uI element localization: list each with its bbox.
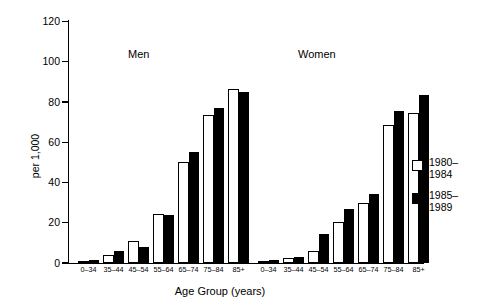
bar [78,261,89,263]
x-axis-tick-label: 85+ [404,266,433,274]
bar [283,258,294,263]
legend-label: 1980–1984 [429,156,458,180]
bar [419,95,430,263]
y-axis-tick-label: 20 [30,217,60,228]
y-axis-tick [62,61,68,62]
bar [214,108,225,263]
bar [228,89,239,263]
y-axis-tick [62,222,68,223]
y-axis-tick [62,101,68,102]
legend-label: 1985–1989 [429,189,458,213]
bar [164,215,175,263]
y-axis-tick-label: 60 [30,137,60,148]
bar [369,194,380,263]
x-axis-tick-label: 85+ [224,266,253,274]
y-axis-tick [62,182,68,183]
bar [408,113,419,263]
y-axis-tick [62,21,68,22]
bar [333,222,344,263]
y-axis-tick-label: 100 [30,56,60,67]
x-axis-title: Age Group (years) [0,285,440,297]
bar [319,234,330,263]
y-axis-tick-label: 120 [30,16,60,27]
legend-swatch-open-icon [412,160,423,171]
bar [394,111,405,263]
panel-label-women: Women [298,48,336,60]
bar [383,125,394,263]
bar [358,203,369,263]
legend-swatch-filled-icon [412,193,423,204]
bar [189,152,200,263]
bar [344,209,355,263]
bar [239,92,250,263]
bar [139,247,150,263]
y-axis-line [68,20,69,264]
y-axis-tick-label: 0 [30,258,60,269]
bar [269,260,280,263]
bar [153,214,164,263]
y-axis-tick [62,142,68,143]
y-axis-tick-label: 40 [30,177,60,188]
bar [203,115,214,263]
bar [128,241,139,263]
bar [178,162,189,263]
panel-label-men: Men [128,48,149,60]
bar [308,251,319,263]
bar [89,260,100,263]
bar-chart: per 1,000 020406080100120 Men0–3435–4445… [0,0,498,308]
bar [103,255,114,263]
bar [258,261,269,263]
bar [114,251,125,263]
bar [294,257,305,263]
y-axis-tick-label: 80 [30,97,60,108]
